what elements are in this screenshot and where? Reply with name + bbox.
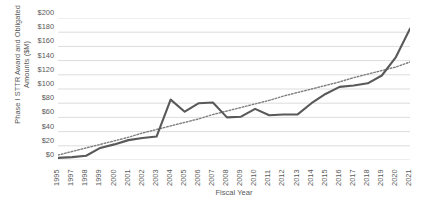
- x-axis-tick-label: 2002: [137, 169, 146, 186]
- y-axis-tick-label: $200: [18, 8, 54, 17]
- y-axis-tick-labels: $200$180$160$140$120$100$80$60$40$20$0: [18, 12, 54, 162]
- plot-area: [58, 18, 410, 160]
- x-axis-tick-label: 2016: [334, 169, 343, 186]
- y-axis-tick-label: $120: [18, 64, 54, 73]
- x-axis-tick-label: 1997: [66, 169, 75, 186]
- x-axis-tick-label: 2004: [165, 169, 174, 186]
- x-axis-tick-label: 2009: [235, 169, 244, 186]
- x-axis-tick-label: 1999: [94, 169, 103, 186]
- plot-svg: [58, 18, 410, 160]
- x-axis-tick-label: 2000: [109, 169, 118, 186]
- y-axis-tick-label: $160: [18, 36, 54, 45]
- x-axis-tick-label: 2005: [179, 169, 188, 186]
- gridlines: [58, 18, 410, 160]
- y-axis-tick-label: $60: [18, 107, 54, 116]
- y-axis-tick-label: $80: [18, 93, 54, 102]
- x-axis-tick-label: 2012: [277, 169, 286, 186]
- x-axis-tick-label: 2017: [348, 169, 357, 186]
- x-axis-tick-label: 2010: [249, 169, 258, 186]
- x-axis-tick-label: 2013: [292, 169, 301, 186]
- y-axis-tick-label: $40: [18, 121, 54, 130]
- x-axis-tick-label: 2015: [320, 169, 329, 186]
- x-axis-tick-label: 2020: [390, 169, 399, 186]
- x-axis-tick-label: 2006: [193, 169, 202, 186]
- x-axis-tick-label: 2021: [404, 169, 413, 186]
- x-axis-tick-label: 2011: [263, 170, 272, 186]
- x-axis-tick-label: 1998: [80, 169, 89, 186]
- trendline-series: [58, 62, 410, 155]
- x-axis-tick-label: 2003: [151, 169, 160, 186]
- y-axis-tick-label: $180: [18, 22, 54, 31]
- x-axis-tick-label: 1995: [52, 169, 61, 186]
- x-axis-tick-label: 2008: [221, 169, 230, 186]
- chart-container: Phase I STTR Award and Obligated Amounts…: [0, 0, 422, 204]
- x-axis-tick-label: 2007: [207, 169, 216, 186]
- y-axis-tick-label: $20: [18, 135, 54, 144]
- x-axis-tick-label: 2018: [362, 169, 371, 186]
- x-axis-tick-label: 2014: [306, 169, 315, 186]
- y-axis-tick-label: $140: [18, 50, 54, 59]
- x-axis-tick-labels: 1995199719981999200020012002200320042005…: [58, 162, 410, 186]
- x-axis-tick-label: 2001: [123, 169, 132, 186]
- y-axis-tick-label: $0: [18, 150, 54, 159]
- x-axis-title: Fiscal Year: [58, 188, 410, 197]
- x-axis-tick-label: 2019: [376, 169, 385, 186]
- y-axis-tick-label: $100: [18, 79, 54, 88]
- data-series-line: [58, 29, 410, 158]
